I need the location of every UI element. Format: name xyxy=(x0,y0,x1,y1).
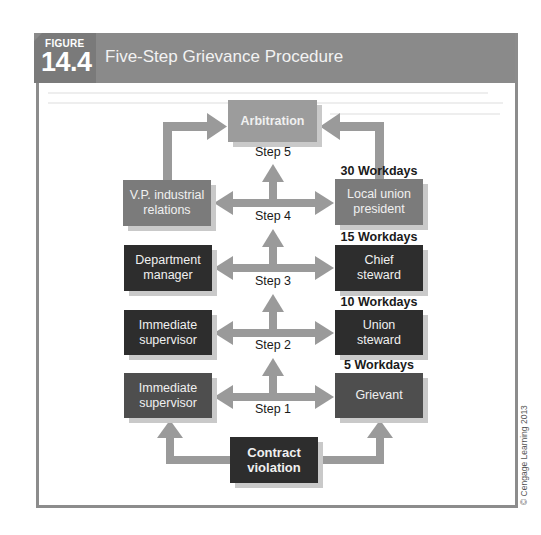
grievant-box: Grievant xyxy=(335,373,423,418)
box-text: Local union xyxy=(347,187,411,202)
box-text: manager xyxy=(135,268,200,283)
box-text: Union xyxy=(357,318,401,333)
step-3-label: Step 3 xyxy=(243,274,303,288)
time-limit-10: 10 Workdays xyxy=(331,295,427,309)
immediate-supervisor-step2-box: Immediatesupervisor xyxy=(124,310,212,355)
contract-violation-box: Contractviolation xyxy=(230,437,318,483)
vp-industrial-relations-box: V.P. industrialrelations xyxy=(123,180,211,226)
box-text: Immediate xyxy=(139,318,197,333)
step-4-label: Step 4 xyxy=(243,209,303,223)
time-limit-30: 30 Workdays xyxy=(331,164,427,178)
chief-steward-box: Chiefsteward xyxy=(335,245,423,291)
box-text: supervisor xyxy=(139,333,197,348)
copyright-notice: © Cengage Learning 2013 xyxy=(519,405,529,505)
immediate-supervisor-step1-box: Immediatesupervisor xyxy=(124,373,212,418)
box-text: Immediate xyxy=(139,381,197,396)
box-text: Contract xyxy=(247,445,300,460)
local-union-president-box: Local unionpresident xyxy=(335,179,423,225)
department-manager-box: Departmentmanager xyxy=(124,245,212,291)
step-1-label: Step 1 xyxy=(243,402,303,416)
box-text: Grievant xyxy=(355,388,402,403)
box-text: Department xyxy=(135,253,200,268)
box-text: V.P. industrial xyxy=(130,188,204,203)
box-text: violation xyxy=(247,460,300,475)
step-5-label: Step 5 xyxy=(243,145,303,159)
box-text: relations xyxy=(130,203,204,218)
time-limit-5: 5 Workdays xyxy=(331,358,427,372)
arbitration-box: Arbitration xyxy=(228,100,317,142)
box-text: steward xyxy=(357,333,401,348)
time-limit-15: 15 Workdays xyxy=(331,230,427,244)
union-steward-box: Unionsteward xyxy=(335,310,423,355)
step-2-label: Step 2 xyxy=(243,338,303,352)
arbitration-label: Arbitration xyxy=(241,114,305,129)
box-text: Chief xyxy=(357,253,401,268)
box-text: president xyxy=(347,202,411,217)
box-text: supervisor xyxy=(139,396,197,411)
box-text: steward xyxy=(357,268,401,283)
